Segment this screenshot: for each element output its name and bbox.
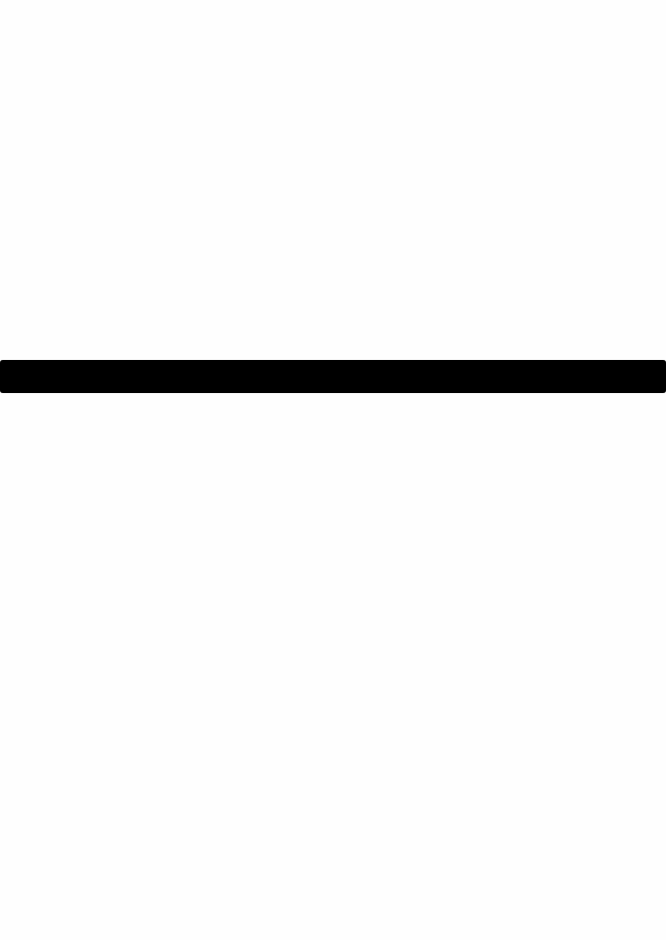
document-page <box>0 0 666 940</box>
black-horizontal-bar <box>0 360 666 393</box>
